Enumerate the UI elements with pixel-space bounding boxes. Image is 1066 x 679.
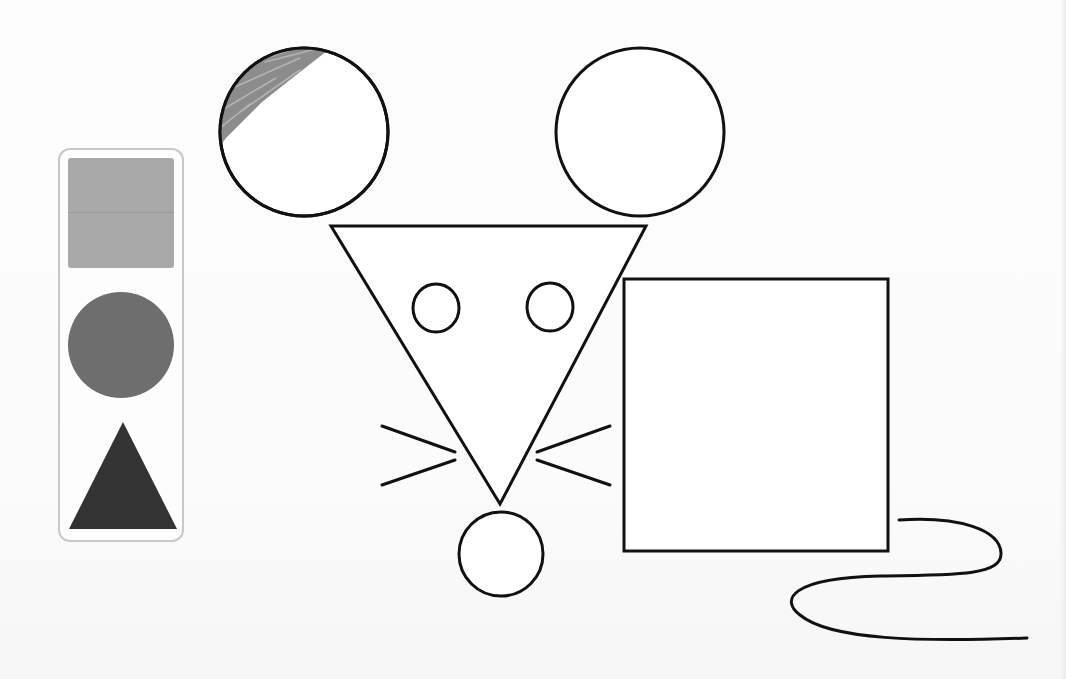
drawing-canvas[interactable] <box>0 0 1066 679</box>
nose-circle[interactable] <box>459 512 543 596</box>
head-triangle[interactable] <box>331 226 646 504</box>
right-ear-circle[interactable] <box>556 48 724 216</box>
whisker-line <box>537 460 610 485</box>
left-eye-circle[interactable] <box>413 284 459 332</box>
whisker-line <box>382 426 455 452</box>
body-square[interactable] <box>624 279 888 551</box>
right-eye-circle[interactable] <box>527 283 573 331</box>
coloring-stage <box>0 0 1066 679</box>
left-ear[interactable] <box>210 40 388 216</box>
page-edge-shadow <box>1060 0 1066 679</box>
whisker-line <box>382 460 455 485</box>
whisker-line <box>537 426 610 452</box>
